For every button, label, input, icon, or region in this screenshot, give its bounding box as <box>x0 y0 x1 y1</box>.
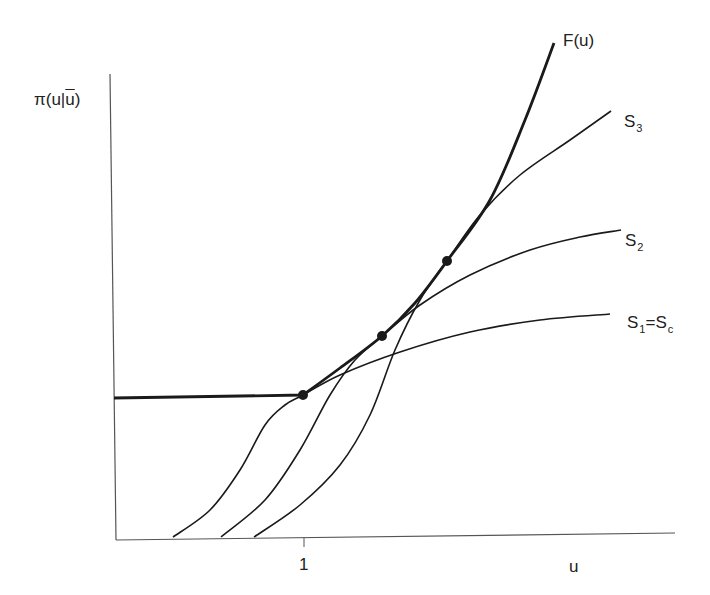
curve-f-envelope <box>114 43 554 398</box>
label-s2-sub: 2 <box>637 241 643 253</box>
label-s1-sub: 1 <box>639 323 645 335</box>
tangent-dot <box>298 390 308 400</box>
label-s1-sc: S1=Sc <box>627 314 673 331</box>
label-s1-eq: =S <box>645 313 666 332</box>
curve-s3 <box>254 111 611 537</box>
y-label-open: (u| <box>46 90 66 109</box>
x-tick-label-1: 1 <box>299 556 308 573</box>
curve-s1-sc <box>173 314 610 537</box>
y-label-pi: π <box>34 90 46 109</box>
y-label-close: ) <box>75 90 81 109</box>
diagram-canvas <box>0 0 710 595</box>
tangent-dot <box>442 256 452 266</box>
label-f-u: F(u) <box>563 32 594 49</box>
label-s3: S3 <box>624 113 642 130</box>
y-label-ubar: u <box>65 90 74 109</box>
curve-s2 <box>221 230 621 537</box>
x-axis <box>116 533 675 540</box>
label-s3-sub: 3 <box>636 122 642 134</box>
y-axis <box>110 74 116 540</box>
tangent-dot <box>377 331 387 341</box>
y-axis-label: π(u|u) <box>34 91 80 108</box>
label-s2-main: S <box>625 231 636 250</box>
tangent-points <box>298 256 452 400</box>
label-s3-main: S <box>624 112 635 131</box>
label-s1-main: S <box>627 313 638 332</box>
x-axis-label: u <box>569 558 578 575</box>
label-s2: S2 <box>625 232 643 249</box>
label-s1-sub-c: c <box>668 323 674 335</box>
